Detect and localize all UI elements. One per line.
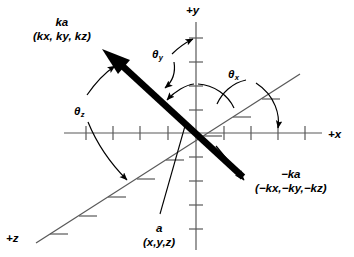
label-angle-theta-x: θx bbox=[228, 68, 239, 82]
theta-y-arc bbox=[165, 39, 193, 88]
z-axis-ticks bbox=[50, 99, 280, 234]
theta-y-subscript: y bbox=[159, 53, 163, 62]
theta-y-symbol: θ bbox=[152, 48, 158, 60]
vector-axes-diagram: -ka ============ --> bbox=[0, 0, 354, 257]
theta-x-symbol: θ bbox=[228, 68, 234, 80]
theta-y-outer-arc bbox=[167, 84, 234, 108]
label-axis-z: +z bbox=[6, 232, 18, 246]
theta-x-subscript: x bbox=[235, 73, 239, 82]
label-a-name: a bbox=[143, 222, 175, 236]
label-axis-y: +y bbox=[186, 4, 199, 18]
vector-ka-line bbox=[102, 49, 243, 177]
label-minus-ka-name: −ka bbox=[255, 168, 327, 182]
label-angle-theta-y: θy bbox=[152, 48, 163, 62]
label-angle-theta-z: θz bbox=[74, 105, 84, 119]
label-ka-name: ka bbox=[33, 16, 91, 30]
minus-ka-leader bbox=[216, 146, 244, 180]
label-minus-ka-components: (−kx,−ky,−kz) bbox=[255, 182, 327, 196]
theta-z-subscript: z bbox=[81, 110, 85, 119]
label-ka-components: (kx, ky, kz) bbox=[33, 30, 91, 44]
label-vector-ka: ka (kx, ky, kz) bbox=[33, 16, 91, 43]
theta-z-arc bbox=[87, 66, 127, 180]
label-a-components: (x,y,z) bbox=[143, 236, 175, 250]
theta-z-symbol: θ bbox=[74, 105, 80, 117]
a-leader-line bbox=[160, 126, 185, 214]
label-vector-a: a (x,y,z) bbox=[143, 222, 175, 249]
label-vector-minus-ka: −ka (−kx,−ky,−kz) bbox=[255, 168, 327, 195]
label-axis-x: +x bbox=[328, 128, 341, 142]
